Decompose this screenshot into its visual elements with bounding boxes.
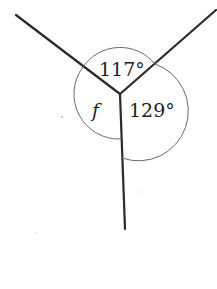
speck-dot (138, 191, 139, 192)
angle-label-f: f (90, 99, 102, 121)
speck-dot (61, 116, 63, 118)
angle-diagram: 117° 129° f (0, 0, 217, 289)
speck-dot (35, 232, 36, 233)
ray-left (16, 15, 120, 94)
angle-label-129: 129° (129, 99, 175, 121)
ray-right (120, 10, 216, 94)
angle-label-117: 117° (99, 58, 145, 80)
ray-down (120, 94, 125, 229)
